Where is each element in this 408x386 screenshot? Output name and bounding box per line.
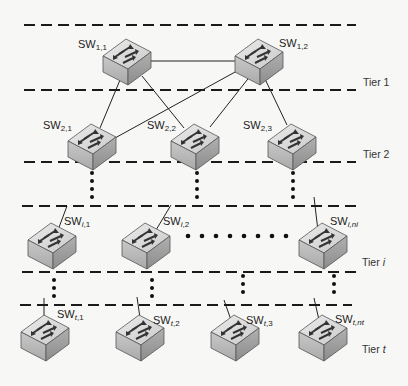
label-sw-2-2: SW2,2 [147,119,176,133]
switch-sw-2-3 [268,124,316,170]
switch-sw-i-ni [299,223,347,269]
horizontal-ellipsis-dots [186,234,289,239]
link-sw11-sw21 [100,80,120,128]
label-sw-t-2: SWt,2 [153,314,180,328]
network-diagram: SW1,1 SW1,2 SW2,1 SW2,2 SW2,3 SWi,1 SWi,… [0,0,408,386]
tier-label-1: Tier 1 [363,76,390,88]
link-stub-swtnt [314,298,319,320]
tier-label-2: Tier 2 [363,148,390,160]
switch-sw-2-2 [171,124,219,170]
link-stub-swini [314,197,318,231]
label-sw-1-2: SW1,2 [279,37,308,51]
link-sw12-sw23 [265,79,287,125]
links [44,61,319,320]
label-sw-t-3: SWt,3 [246,314,273,328]
switch-sw-2-1 [68,124,116,170]
switch-sw-i-2 [122,223,170,269]
switch-sw-i-1 [28,223,76,269]
tier-label-t: Tier t [362,343,387,355]
switch-sw-t-1 [21,315,69,361]
label-sw-i-ni: SWi,ni [330,215,358,229]
vertical-ellipsis-dots [52,171,336,298]
label-sw-i-2: SWi,2 [163,215,190,229]
tier-label-i: Tier i [362,256,386,268]
label-sw-t-1: SWt,1 [57,308,84,322]
label-sw-t-nt: SWt,nt [335,313,365,327]
label-sw-2-1: SW2,1 [43,119,72,133]
link-stub-swt3 [224,300,231,320]
label-sw-i-1: SWi,1 [64,215,91,229]
switch-sw-1-2 [235,39,283,85]
label-sw-1-1: SW1,1 [78,38,107,52]
label-sw-2-3: SW2,3 [243,119,272,133]
